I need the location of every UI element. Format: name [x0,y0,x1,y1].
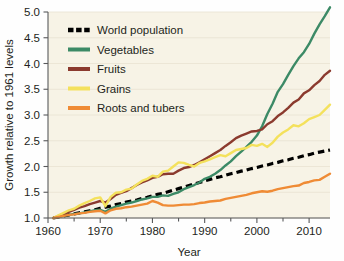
y-tick-label: 4.5 [24,32,40,44]
x-tick-label: 1980 [140,225,166,237]
legend-label-grains: Grains [97,83,131,95]
y-tick-label: 1.0 [24,212,40,224]
x-tick-label: 1970 [87,225,113,237]
x-tick-label: 1990 [192,225,218,237]
x-tick-label: 1960 [35,225,61,237]
legend-label-fruits: Fruits [97,63,126,75]
x-tick-label: 2010 [296,225,322,237]
legend-label-vegetables: Vegetables [97,44,154,56]
x-axis-title: Year [177,246,200,258]
growth-relative-line-chart: 196019701980199020002010 1.01.52.02.53.0… [0,0,344,261]
y-tick-label: 3.0 [24,109,40,121]
y-axis-tick-labels: 1.01.52.02.53.03.54.04.55.0 [24,6,40,224]
y-tick-label: 5.0 [24,6,40,18]
y-tick-label: 3.5 [24,83,40,95]
y-tick-label: 2.0 [24,161,40,173]
chart-figure: 196019701980199020002010 1.01.52.02.53.0… [0,0,344,261]
y-tick-label: 1.5 [24,186,40,198]
legend-label-roots-and-tubers: Roots and tubers [97,102,185,114]
y-axis-title: Growth relative to 1961 levels [3,39,15,191]
y-tick-label: 4.0 [24,58,40,70]
y-tick-label: 2.5 [24,135,40,147]
x-tick-label: 2000 [244,225,270,237]
legend-label-world-population: World population [97,24,183,36]
